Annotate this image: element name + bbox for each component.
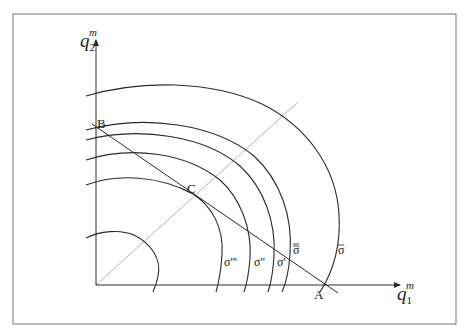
svg-text:σ: σ — [338, 243, 345, 257]
label-sigma-prime: σ' — [277, 255, 286, 269]
label-sigma-triple-prime: σ''' — [224, 255, 237, 269]
y-axis-label: q2m — [80, 26, 97, 53]
diagonal-ray — [96, 103, 297, 285]
label-sigma-double-bar: σ — [293, 243, 300, 257]
curve-sigma-bar — [86, 85, 339, 292]
point-C-label: C — [187, 181, 196, 196]
figure-frame — [13, 14, 456, 324]
curve-innermost — [86, 231, 159, 292]
svg-text:σ: σ — [293, 243, 300, 257]
point-B-label: B — [97, 116, 106, 131]
diagram-canvas: q2m q1m B C A σ''' σ'' σ' σ σ — [0, 0, 467, 336]
point-A-label: A — [314, 287, 324, 302]
label-sigma-bar: σ — [338, 243, 345, 257]
x-axis-label: q1m — [397, 279, 414, 306]
label-sigma-double-prime: σ'' — [254, 255, 265, 269]
curve-sigma-double-prime — [86, 153, 250, 292]
curve-sigma-triple-prime — [86, 178, 222, 292]
